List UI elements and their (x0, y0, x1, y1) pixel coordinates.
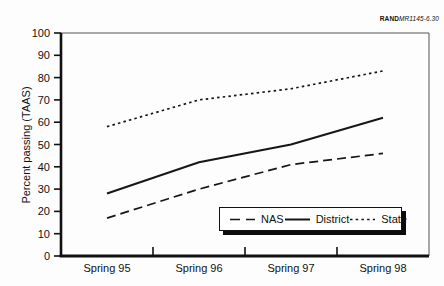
legend-line-sample-long-dash-icon (229, 215, 256, 224)
y-tick-label: 40 (38, 161, 50, 173)
chart-canvas: 0102030405060708090100Spring 95Spring 96… (0, 0, 444, 286)
y-tick-label: 50 (38, 139, 50, 151)
y-tick-label: 60 (38, 116, 50, 128)
x-tick-label: Spring 96 (175, 262, 222, 274)
legend-item-nas: NAS (229, 213, 284, 225)
x-tick-label: Spring 98 (359, 262, 406, 274)
x-tick-label: Spring 97 (267, 262, 314, 274)
y-tick-label: 80 (38, 72, 50, 84)
y-tick-label: 10 (38, 228, 50, 240)
legend-item-state: State (349, 213, 407, 225)
legend-label-state: State (381, 213, 407, 225)
y-tick-label: 100 (32, 27, 50, 39)
legend-label-district: District (316, 213, 350, 225)
series-line-state (107, 71, 383, 127)
legend-label-nas: NAS (261, 213, 284, 225)
y-tick-label: 0 (44, 250, 50, 262)
series-line-district (107, 118, 383, 194)
legend-item-district: District (284, 213, 350, 225)
y-tick-label: 30 (38, 183, 50, 195)
legend: NASDistrictState (219, 207, 402, 231)
y-axis-title: Percent passing (TAAS) (20, 86, 32, 203)
x-tick-label: Spring 95 (83, 262, 130, 274)
legend-line-sample-dotted-icon (349, 215, 376, 224)
y-tick-label: 70 (38, 94, 50, 106)
y-tick-label: 90 (38, 49, 50, 61)
legend-line-sample-solid-icon (284, 215, 311, 224)
y-tick-label: 20 (38, 205, 50, 217)
figure: RANDMR1145-6.30 0102030405060708090100Sp… (0, 0, 444, 286)
